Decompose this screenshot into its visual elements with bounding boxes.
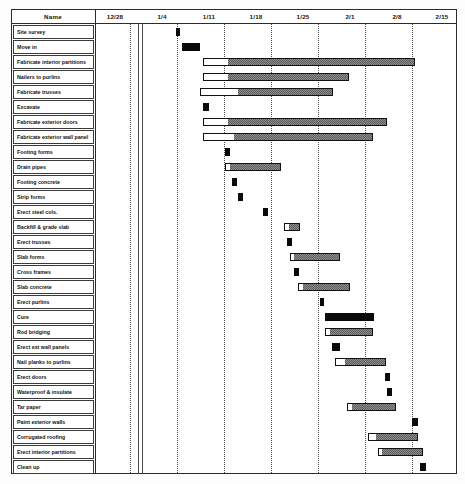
gantt-bar[interactable] (320, 298, 324, 306)
bar-segment-critical (204, 59, 228, 65)
gantt-bar[interactable] (200, 88, 333, 96)
gantt-bar[interactable] (290, 253, 340, 261)
task-name-cell[interactable]: Fabricate exterior wall panel (13, 130, 94, 144)
bar-segment-critical (233, 179, 236, 185)
gantt-bar[interactable] (420, 463, 426, 471)
gantt-bar[interactable] (347, 403, 396, 411)
gantt-bar[interactable] (284, 223, 300, 231)
bar-segment-critical (204, 74, 228, 80)
bar-segment-critical (264, 209, 267, 215)
task-name-cell[interactable]: Waterproof & insulate (13, 385, 94, 399)
status-date-line (138, 24, 139, 474)
bar-segment-critical (183, 44, 199, 50)
task-name-cell[interactable]: Cross frames (13, 265, 94, 279)
task-name-cell[interactable]: Fabricate trusses (13, 85, 94, 99)
timeline-plot (96, 24, 457, 474)
gantt-bar[interactable] (335, 358, 386, 366)
status-date-line (142, 24, 143, 474)
task-name-cell[interactable]: Paint exterior walls (13, 415, 94, 429)
gantt-bar[interactable] (176, 28, 180, 36)
gridline (130, 24, 131, 474)
bar-segment-critical (413, 419, 417, 425)
bar-segment-critical (226, 149, 229, 155)
gantt-bar[interactable] (182, 43, 200, 51)
bar-segment-float (238, 89, 332, 95)
task-name-cell[interactable]: Footing forms (13, 145, 94, 159)
bar-segment-critical (239, 194, 242, 200)
task-name-cell[interactable]: Drain pipes (13, 160, 94, 174)
task-name-cell[interactable]: Corrugated roofing (13, 430, 94, 444)
task-name-column: Site surveyMove inFabricate interior par… (11, 24, 96, 474)
gantt-bar[interactable] (203, 73, 349, 81)
gantt-bar[interactable] (387, 388, 392, 396)
task-name-cell[interactable]: Slab concrete (13, 280, 94, 294)
timeline-tick-label: 1/18 (239, 9, 273, 24)
gantt-bar[interactable] (294, 268, 299, 276)
timeline-tick-label: 2/1 (333, 9, 367, 24)
task-name-cell[interactable]: Site survey (13, 25, 94, 39)
task-name-cell[interactable]: Excavate (13, 100, 94, 114)
task-name-cell[interactable]: Move in (13, 40, 94, 54)
task-name-cell[interactable]: Erect interior partitions (13, 445, 94, 459)
bar-segment-critical (369, 434, 376, 440)
gantt-bar[interactable] (203, 58, 415, 66)
gantt-bar[interactable] (203, 103, 209, 111)
bar-segment-critical (204, 104, 208, 110)
task-name-cell[interactable]: Strip forms (13, 190, 94, 204)
timeline-tick-label: 1/25 (286, 9, 320, 24)
task-name-cell[interactable]: Fabricate exterior doors (13, 115, 94, 129)
task-name-cell[interactable]: Nailers to purlins (13, 70, 94, 84)
bar-segment-float (303, 284, 349, 290)
bar-segment-critical (336, 359, 345, 365)
gantt-bar[interactable] (368, 433, 418, 441)
gantt-bar[interactable] (385, 373, 390, 381)
bar-segment-float (330, 329, 372, 335)
bar-segment-critical (388, 389, 391, 395)
task-name-cell[interactable]: Fabricate interior partitions (13, 55, 94, 69)
bar-segment-float (352, 404, 395, 410)
gridline (412, 24, 413, 474)
task-name-cell[interactable]: Erect ext wall panels (13, 340, 94, 354)
task-name-cell[interactable]: Erect doors (13, 370, 94, 384)
gantt-bar[interactable] (225, 148, 230, 156)
gantt-bar[interactable] (238, 193, 243, 201)
bar-segment-critical (204, 119, 228, 125)
gantt-bar[interactable] (203, 118, 387, 126)
task-name-cell[interactable]: Nail planks to purlins (13, 355, 94, 369)
gantt-bar[interactable] (263, 208, 268, 216)
bar-segment-critical (321, 299, 323, 305)
task-name-cell[interactable]: Slab forms (13, 250, 94, 264)
bar-segment-float (234, 134, 372, 140)
task-name-cell[interactable]: Rod bridging (13, 325, 94, 339)
task-name-cell[interactable]: Tar paper (13, 400, 94, 414)
task-name-cell[interactable]: Backfill & grade slab (13, 220, 94, 234)
gantt-bar[interactable] (325, 328, 373, 336)
gantt-bar[interactable] (203, 133, 373, 141)
task-name-cell[interactable]: Cure (13, 310, 94, 324)
task-name-cell[interactable]: Erect purlins (13, 295, 94, 309)
gantt-bar[interactable] (412, 418, 418, 426)
gantt-bar[interactable] (378, 448, 423, 456)
bar-segment-critical (326, 314, 373, 320)
timeline-tick-label: 1/11 (192, 9, 226, 24)
task-name-cell[interactable]: Erect trusses (13, 235, 94, 249)
gantt-bar[interactable] (298, 283, 350, 291)
column-header-name: Name (11, 9, 96, 24)
timeline-tick-label: 2/15 (425, 9, 459, 24)
task-name-cell[interactable]: Erect steel cols. (13, 205, 94, 219)
bar-segment-critical (421, 464, 425, 470)
chart-header: Name 12/281/41/111/181/252/12/82/15 (11, 9, 457, 24)
task-name-cell[interactable]: Clean up (13, 460, 94, 474)
gantt-bar[interactable] (325, 313, 374, 321)
gantt-bar[interactable] (225, 163, 281, 171)
bar-segment-float (228, 119, 386, 125)
bar-segment-float (345, 359, 385, 365)
task-name-cell[interactable]: Footing concrete (13, 175, 94, 189)
gantt-bar[interactable] (232, 178, 237, 186)
gantt-bar[interactable] (287, 238, 292, 246)
timeline-tick-label: 12/28 (98, 9, 132, 24)
bar-segment-float (382, 449, 422, 455)
bar-segment-critical (333, 344, 339, 350)
bar-segment-critical (204, 134, 234, 140)
gantt-bar[interactable] (332, 343, 340, 351)
